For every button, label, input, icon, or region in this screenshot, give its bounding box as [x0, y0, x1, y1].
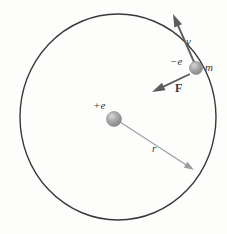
force-label: F: [175, 82, 182, 94]
velocity-arrowhead-icon: [173, 14, 182, 28]
radius-arrowhead-icon: [184, 162, 194, 170]
electron-mass-label: m: [205, 62, 213, 73]
electron-charge-label: −e: [170, 56, 182, 67]
velocity-label: v: [186, 36, 191, 47]
force-arrowhead-icon: [152, 83, 166, 92]
radius-label: r: [152, 143, 156, 154]
physics-diagram-figure: +e −e m v F r: [0, 0, 227, 234]
electron-sphere: [190, 62, 203, 75]
diagram-canvas: [0, 0, 227, 234]
nucleus-charge-label: +e: [93, 100, 105, 111]
nucleus-sphere: [107, 112, 122, 127]
